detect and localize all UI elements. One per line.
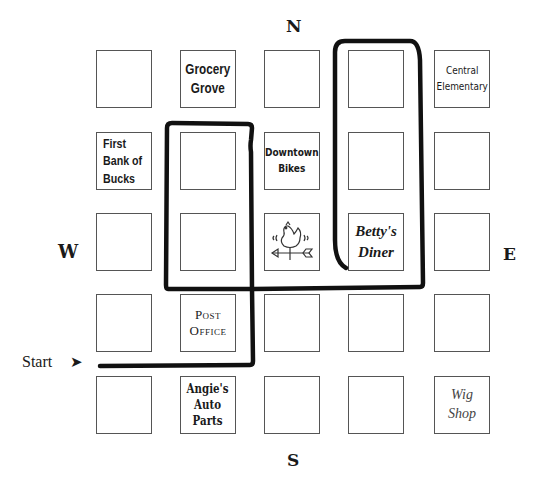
block-r3-c4 [434, 294, 490, 352]
block-angies-auto-parts: Angie's Auto Parts [180, 376, 236, 434]
block-label: Angie's Auto Parts [187, 381, 229, 430]
block-r2-c1 [180, 213, 236, 271]
block-r0-c2 [264, 50, 320, 108]
compass-west: W [58, 241, 78, 262]
compass-south: S [287, 450, 299, 470]
block-central-elementary: Central Elementary [434, 50, 490, 108]
block-r1-c1 [180, 132, 236, 190]
block-label: First Bank of Bucks [103, 135, 142, 188]
block-weathervane [264, 213, 320, 271]
arrow-right-icon: ➤ [70, 353, 83, 371]
block-r1-c4 [434, 132, 490, 190]
block-r0-c0 [96, 50, 152, 108]
block-label: Downtown Bikes [265, 145, 319, 177]
compass-north: N [286, 16, 302, 36]
weathervane-rooster-icon [266, 216, 318, 268]
block-post-office: Post Office [180, 294, 236, 352]
block-label: Central Elementary [436, 63, 487, 95]
block-grocery-grove: Grocery Grove [180, 50, 236, 108]
compass-east: E [503, 244, 516, 264]
block-r3-c3 [348, 294, 404, 352]
start-label: Start [22, 353, 52, 371]
block-label: Grocery Grove [186, 60, 231, 98]
block-r2-c0 [96, 213, 152, 271]
block-downtown-bikes: Downtown Bikes [264, 132, 320, 190]
block-r3-c2 [264, 294, 320, 352]
block-label: Wig Shop [448, 386, 476, 424]
block-label: Post Office [190, 307, 227, 338]
block-r1-c3 [348, 132, 404, 190]
block-wig-shop: Wig Shop [434, 376, 490, 434]
block-r0-c3 [348, 50, 404, 108]
block-label: Betty's Diner [355, 221, 397, 263]
block-r4-c2 [264, 376, 320, 434]
block-r2-c4 [434, 213, 490, 271]
block-r4-c3 [348, 376, 404, 434]
block-bettys-diner: Betty's Diner [348, 213, 404, 271]
town-map: N S E W Start ➤ Grocery Grove Central El… [0, 0, 535, 488]
block-r4-c0 [96, 376, 152, 434]
block-r3-c0 [96, 294, 152, 352]
block-first-bank-of-bucks: First Bank of Bucks [96, 132, 152, 190]
